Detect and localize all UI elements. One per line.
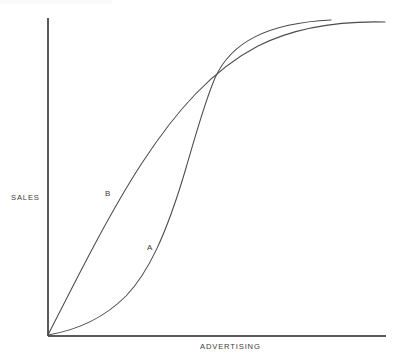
- curve-b-concave: [48, 22, 385, 335]
- plot-area: [0, 0, 399, 359]
- advertising-sales-chart: SALES ADVERTISING B A: [0, 0, 399, 359]
- curve-a-sigmoid: [48, 20, 331, 335]
- x-axis-title: ADVERTISING: [200, 343, 261, 351]
- y-axis-title: SALES: [11, 194, 40, 202]
- curve-label-b: B: [105, 190, 110, 198]
- curve-label-a: A: [147, 244, 152, 252]
